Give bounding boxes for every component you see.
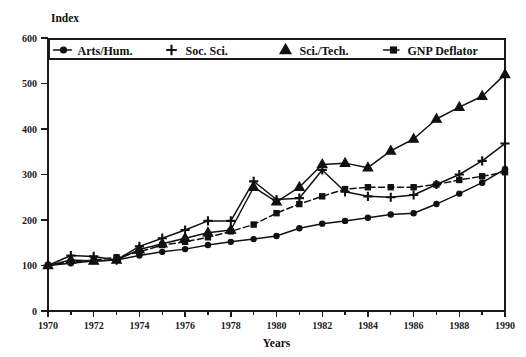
axis-labels-layer: 0100200300400500600197019721974197619781… <box>22 12 515 349</box>
marker-square <box>342 186 347 191</box>
x-tick-label: 1970 <box>38 320 58 331</box>
x-axis-title: Years <box>263 337 291 349</box>
x-tick-label: 1984 <box>358 320 378 331</box>
marker-square <box>137 249 142 254</box>
marker-square <box>68 259 73 264</box>
marker-square <box>457 177 462 182</box>
marker-circle <box>480 180 485 185</box>
line-chart: Arts/Hum.Soc. Sci.Sci./Tech.GNP Deflator… <box>0 0 526 357</box>
marker-circle <box>342 218 347 223</box>
marker-square <box>297 201 302 206</box>
marker-square <box>388 185 393 190</box>
marker-square <box>228 229 233 234</box>
x-tick-label: 1976 <box>175 320 195 331</box>
marker-plus <box>166 45 177 56</box>
marker-triangle <box>409 134 419 142</box>
marker-circle <box>365 215 370 220</box>
marker-circle <box>457 191 462 196</box>
x-tick-label: 1988 <box>449 320 469 331</box>
marker-plus <box>386 193 395 202</box>
marker-triangle <box>317 159 327 167</box>
marker-triangle <box>500 69 510 77</box>
marker-circle <box>274 233 279 238</box>
marker-square <box>251 222 256 227</box>
marker-square <box>205 235 210 240</box>
legend-entry-soc-sci[interactable]: Soc. Sci. <box>166 44 228 58</box>
marker-square <box>274 211 279 216</box>
marker-triangle <box>340 158 350 166</box>
marker-circle <box>411 211 416 216</box>
marker-square <box>160 242 165 247</box>
y-axis-title: Index <box>51 12 79 24</box>
marker-circle <box>205 242 210 247</box>
marker-plus <box>409 190 418 199</box>
marker-square <box>434 182 439 187</box>
y-tick-label: 100 <box>22 260 37 271</box>
marker-circle <box>183 247 188 252</box>
marker-circle <box>434 201 439 206</box>
x-tick-label: 1978 <box>221 320 241 331</box>
series-gnp-deflator <box>45 170 507 268</box>
marker-circle <box>320 221 325 226</box>
marker-circle <box>160 249 165 254</box>
y-tick-label: 500 <box>22 78 37 89</box>
marker-plus <box>363 192 372 201</box>
marker-square <box>320 194 325 199</box>
legend-entry-arts-hum[interactable]: Arts/Hum. <box>54 44 133 58</box>
marker-triangle <box>272 197 282 205</box>
x-tick-label: 1974 <box>129 320 149 331</box>
legend-entry-sci-tech[interactable]: Sci./Tech. <box>280 44 348 58</box>
marker-square <box>391 47 397 53</box>
marker-square <box>365 185 370 190</box>
marker-square <box>45 263 50 268</box>
chart-legend: Arts/Hum.Soc. Sci.Sci./Tech.GNP Deflator <box>50 39 505 59</box>
y-tick-label: 200 <box>22 215 37 226</box>
axis-lines <box>48 38 505 311</box>
marker-plus <box>203 216 212 225</box>
marker-circle <box>61 47 67 53</box>
legend-label: Arts/Hum. <box>78 44 133 58</box>
x-tick-label: 1986 <box>404 320 424 331</box>
marker-square <box>183 239 188 244</box>
marker-square <box>114 255 119 260</box>
series-layer <box>43 69 510 270</box>
marker-square <box>411 185 416 190</box>
marker-triangle <box>280 44 291 54</box>
x-tick-label: 1990 <box>495 320 515 331</box>
marker-square <box>91 257 96 262</box>
marker-square <box>480 174 485 179</box>
y-tick-label: 600 <box>22 33 37 44</box>
y-tick-label: 0 <box>32 306 37 317</box>
legend-entry-gnp-deflator[interactable]: GNP Deflator <box>384 44 479 58</box>
y-tick-label: 400 <box>22 124 37 135</box>
marker-circle <box>251 237 256 242</box>
legend-label: Sci./Tech. <box>300 44 349 58</box>
x-tick-label: 1982 <box>312 320 332 331</box>
x-tick-label: 1972 <box>84 320 104 331</box>
axes-layer <box>41 38 505 317</box>
marker-circle <box>228 239 233 244</box>
x-tick-label: 1980 <box>267 320 287 331</box>
marker-circle <box>297 226 302 231</box>
legend-label: GNP Deflator <box>408 44 479 58</box>
marker-circle <box>388 212 393 217</box>
marker-square <box>502 170 507 175</box>
legend-label: Soc. Sci. <box>186 44 228 58</box>
y-tick-label: 300 <box>22 169 37 180</box>
chart-figure: Arts/Hum.Soc. Sci.Sci./Tech.GNP Deflator… <box>0 0 526 357</box>
